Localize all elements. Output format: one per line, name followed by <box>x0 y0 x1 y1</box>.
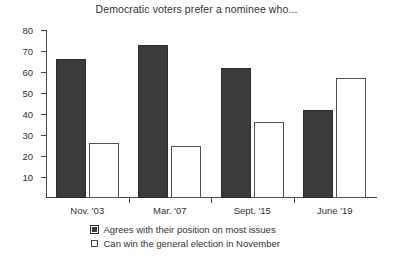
legend-swatch-dark-icon <box>91 226 98 233</box>
bar-agrees-3 <box>303 110 333 198</box>
bar-group-1 <box>129 30 212 198</box>
x-axis-category-labels: Nov. '03Mar. '07Sept. '15June '19 <box>46 205 376 216</box>
chart-container: Democratic voters prefer a nominee who..… <box>0 0 393 259</box>
chart-legend: Agrees with their position on most issue… <box>0 224 393 249</box>
y-tick-label-50: 50 <box>22 88 33 99</box>
x-separator-3 <box>294 198 295 203</box>
bar-agrees-0 <box>56 59 86 198</box>
bar-canwin-0 <box>89 143 119 198</box>
bar-group-2 <box>211 30 294 198</box>
y-tick-label-70: 70 <box>22 46 33 57</box>
bar-canwin-2 <box>254 122 284 198</box>
y-tick-label-40: 40 <box>22 109 33 120</box>
y-tick-label-80: 80 <box>22 25 33 36</box>
bar-group-0 <box>46 30 129 198</box>
bar-group-3 <box>294 30 377 198</box>
x-separator-2 <box>211 198 212 203</box>
x-separator-1 <box>129 198 130 203</box>
chart-title: Democratic voters prefer a nominee who..… <box>0 3 393 15</box>
legend-label-1: Can win the general election in November <box>104 238 280 249</box>
bar-canwin-3 <box>336 78 366 198</box>
x-category-label-0: Nov. '03 <box>46 205 129 216</box>
y-tick-label-30: 30 <box>22 130 33 141</box>
y-tick-label-20: 20 <box>22 151 33 162</box>
bar-canwin-1 <box>171 146 201 199</box>
legend-item-0: Agrees with their position on most issue… <box>91 224 303 235</box>
plot-area: 1020304050607080 <box>46 30 376 198</box>
y-tick-label-60: 60 <box>22 67 33 78</box>
y-tick-label-10: 10 <box>22 172 33 183</box>
x-category-label-3: June '19 <box>294 205 377 216</box>
x-category-label-2: Sept. '15 <box>211 205 294 216</box>
bar-groups <box>46 30 376 198</box>
bar-agrees-1 <box>138 45 168 198</box>
bar-agrees-2 <box>221 68 251 198</box>
legend-label-0: Agrees with their position on most issue… <box>104 224 276 235</box>
legend-swatch-light-icon <box>91 240 98 247</box>
legend-item-1: Can win the general election in November <box>91 238 303 249</box>
x-category-label-1: Mar. '07 <box>129 205 212 216</box>
